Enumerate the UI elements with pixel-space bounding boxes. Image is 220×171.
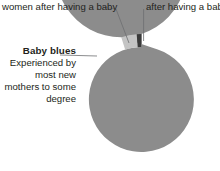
annotation-callout-baby-blues: Baby blues Experienced by most new mothe… — [0, 45, 76, 105]
chart-page: women after having a baby after having a… — [0, 0, 220, 171]
annotation-callout-title: Baby blues — [0, 45, 76, 57]
donut-slice-baby-blues[interactable] — [56, 0, 194, 152]
annotation-callout-description: Experienced by most new mothers to some … — [0, 57, 76, 105]
annotation-label-women-after-having-a-baby: women after having a baby — [2, 1, 117, 13]
annotation-label-after-having-a-baby: after having a baby — [146, 1, 220, 13]
